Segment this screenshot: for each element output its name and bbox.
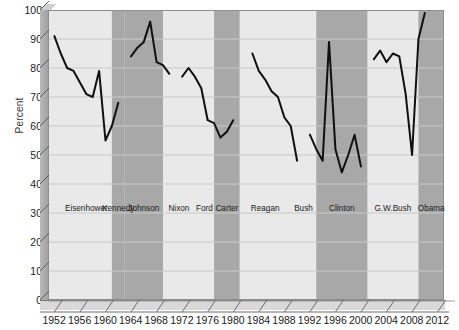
x-tick-label-1968: 1968 (145, 314, 168, 326)
x-tick-label-2012: 2012 (426, 314, 449, 326)
y-tick-100: 100 (16, 5, 42, 15)
x-tick-1956 (80, 300, 88, 312)
president-label-johnson: Johnson (128, 204, 159, 213)
president-label-clinton: Clinton (329, 204, 355, 213)
y-tick-70: 70 (16, 92, 42, 102)
plot-area: EisenhowerKennedyJohnsonNixonFordCarterR… (48, 10, 444, 300)
y-tick-80: 80 (16, 63, 42, 73)
series-segment (374, 13, 425, 155)
x-tick-label-1952: 1952 (42, 314, 65, 326)
y-tick-50: 50 (16, 150, 42, 160)
x-tick-label-1992: 1992 (298, 314, 321, 326)
grid-lines (48, 10, 444, 271)
x-tick-1968 (157, 300, 165, 312)
x-tick-label-1976: 1976 (196, 314, 219, 326)
y-tick-30: 30 (16, 208, 42, 218)
x-tick-1960 (105, 300, 113, 312)
chart-figure: Percent 0102030405060708090100 Eisenhowe… (0, 0, 459, 330)
x-tick-1996 (335, 300, 343, 312)
x-tick-label-1960: 1960 (93, 314, 116, 326)
x-tick-1992 (310, 300, 318, 312)
series-segment (252, 54, 297, 161)
y-tick-40: 40 (16, 179, 42, 189)
x-tick-2012 (438, 300, 446, 312)
chart-canvas (48, 10, 444, 300)
x-tick-label-2008: 2008 (400, 314, 423, 326)
president-label-carter: Carter (215, 204, 238, 213)
y-tick-60: 60 (16, 121, 42, 131)
x-tick-1976 (208, 300, 216, 312)
x-tick-2008 (412, 300, 420, 312)
x-tick-2000 (361, 300, 369, 312)
y-tick-20: 20 (16, 237, 42, 247)
x-tick-1972 (182, 300, 190, 312)
x-tick-label-1964: 1964 (119, 314, 142, 326)
x-tick-label-2004: 2004 (375, 314, 398, 326)
x-tick-label-1980: 1980 (221, 314, 244, 326)
president-label-bush: Bush (294, 204, 313, 213)
x-tick-1964 (131, 300, 139, 312)
x-tick-label-1972: 1972 (170, 314, 193, 326)
x-tick-1980 (233, 300, 241, 312)
y-tick-0: 0 (16, 295, 42, 305)
president-label-ford: Ford (196, 204, 213, 213)
x-tick-label-1984: 1984 (247, 314, 270, 326)
y-axis-ticks (40, 0, 54, 310)
y-tick-90: 90 (16, 34, 42, 44)
x-tick-label-1988: 1988 (272, 314, 295, 326)
president-label-gwbush: G.W.Bush (374, 204, 411, 213)
x-tick-2004 (387, 300, 395, 312)
y-tick-10: 10 (16, 266, 42, 276)
x-tick-label-2000: 2000 (349, 314, 372, 326)
x-tick-1988 (284, 300, 292, 312)
series-segment (54, 36, 118, 140)
x-tick-label-1956: 1956 (68, 314, 91, 326)
x-tick-1984 (259, 300, 267, 312)
president-label-reagan: Reagan (251, 204, 280, 213)
president-label-obama: Obama (418, 204, 445, 213)
y-axis-tick-labels: 0102030405060708090100 (14, 0, 42, 330)
president-label-nixon: Nixon (168, 204, 189, 213)
data-series-line (54, 13, 424, 173)
x-tick-1952 (54, 300, 62, 312)
x-tick-label-1996: 1996 (323, 314, 346, 326)
